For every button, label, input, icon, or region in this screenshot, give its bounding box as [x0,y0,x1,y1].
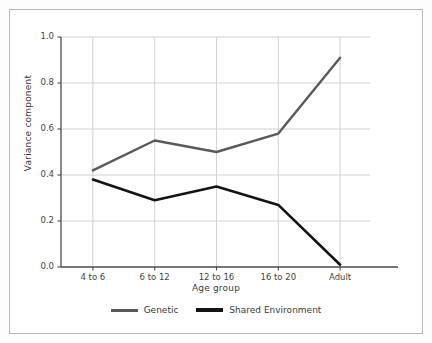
x-axis-title: Age group [0,283,432,293]
legend-label-genetic: Genetic [144,305,179,315]
y-tick-label: 1.0 [28,31,54,41]
x-tick-label: Adult [310,272,370,282]
x-tick-label: 6 to 12 [125,272,185,282]
x-tick-label: 12 to 16 [187,272,247,282]
y-tick-label: 0.8 [28,77,54,87]
legend-item-genetic[interactable]: Genetic [111,305,179,315]
legend-item-shared-environment[interactable]: Shared Environment [196,305,321,315]
legend-label-shared-environment: Shared Environment [229,305,321,315]
x-tick-label: 16 to 20 [248,272,308,282]
chart-figure: Variance component Age group 0.00.20.40.… [0,0,432,343]
y-tick-label: 0.0 [28,261,54,271]
chart-legend: Genetic Shared Environment [0,305,432,315]
y-tick-label: 0.2 [28,215,54,225]
y-tick-label: 0.6 [28,123,54,133]
gridlines-group [61,37,370,221]
x-tick-label: 4 to 6 [63,272,123,282]
y-tick-label: 0.4 [28,169,54,179]
tick-marks-group [58,37,341,271]
legend-swatch-genetic [111,309,138,312]
axis-lines-group [61,37,398,267]
legend-swatch-shared-environment [196,308,223,312]
